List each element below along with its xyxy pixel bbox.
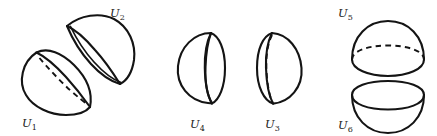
figure-canvas: U1 U2 U4 U3 bbox=[0, 0, 437, 136]
label-U6: U6 bbox=[338, 118, 353, 134]
U5-dome-boundary bbox=[352, 21, 424, 60]
U5-front-rim bbox=[352, 60, 424, 77]
label-U5: U5 bbox=[338, 6, 353, 22]
hemisphere-figure: U1 U2 U4 U3 bbox=[0, 0, 437, 136]
hemisphere-U3 bbox=[257, 33, 302, 104]
hemisphere-U1 bbox=[22, 50, 91, 115]
label-U1: U1 bbox=[22, 116, 37, 132]
hemisphere-U6 bbox=[352, 81, 424, 133]
shape-group-diagonal: U1 U2 bbox=[22, 6, 134, 132]
label-U4: U4 bbox=[190, 117, 205, 133]
U6-bowl-boundary bbox=[352, 95, 424, 133]
U4-right-bulge bbox=[211, 33, 225, 103]
U6-rim-front-arc bbox=[352, 95, 424, 110]
U1-outer-boundary bbox=[22, 53, 90, 116]
U3-outer-boundary bbox=[266, 33, 302, 104]
U5-hidden-back-rim bbox=[352, 46, 424, 60]
shape-group-stacked: U5 U6 bbox=[338, 6, 424, 134]
U6-rim-back-arc bbox=[352, 81, 424, 95]
label-U3: U3 bbox=[265, 117, 280, 133]
hemisphere-U5 bbox=[352, 21, 424, 76]
label-U2: U2 bbox=[110, 6, 125, 22]
hemisphere-U4 bbox=[178, 33, 225, 103]
shape-group-side-by-side: U4 U3 bbox=[178, 33, 302, 133]
U1-hidden-rim bbox=[40, 58, 89, 105]
hemisphere-U2 bbox=[67, 15, 134, 84]
